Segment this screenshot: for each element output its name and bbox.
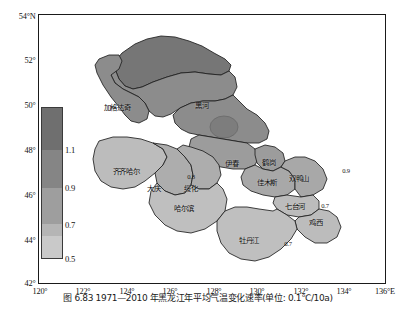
colorbar-segment-3 bbox=[42, 224, 62, 236]
y-tick-54: 54°N bbox=[19, 12, 39, 21]
city-label-jiamusi: 佳木斯 bbox=[257, 176, 277, 187]
y-tick-48: 48° bbox=[25, 146, 39, 155]
contour-label-0: 0.9 bbox=[342, 167, 350, 174]
colorbar-segment-1 bbox=[42, 150, 62, 188]
colorbar-tick-0-9: 0.9 bbox=[65, 183, 75, 193]
figure-container: 加格达奇 黑河 齐齐哈尔 大庆 伊春 绥化 哈尔滨 鹤岗 佳木斯 双鸭山 七台河… bbox=[0, 0, 396, 311]
city-label-yichun: 伊春 bbox=[225, 157, 238, 168]
colorbar bbox=[41, 107, 63, 259]
colorbar-segment-4 bbox=[42, 236, 62, 259]
contour-label-1: 0.7 bbox=[321, 202, 329, 209]
city-label-harbin: 哈尔滨 bbox=[174, 202, 194, 213]
colorbar-tick-1-1: 1.1 bbox=[65, 145, 75, 155]
city-label-hegang: 鹤岗 bbox=[262, 156, 275, 167]
map-plot-area: 加格达奇 黑河 齐齐哈尔 大庆 伊春 绥化 哈尔滨 鹤岗 佳木斯 双鸭山 七台河… bbox=[38, 14, 386, 284]
y-tick-44: 44° bbox=[25, 236, 39, 245]
y-tick-52: 52° bbox=[25, 56, 39, 65]
contour-label-2: 0.7 bbox=[284, 240, 292, 247]
colorbar-segment-0 bbox=[42, 108, 62, 150]
city-label-mudanjiang: 牡丹江 bbox=[239, 234, 259, 245]
city-label-jiagedaqi: 加格达奇 bbox=[104, 101, 130, 112]
colorbar-tick-0-5: 0.5 bbox=[65, 254, 75, 264]
city-label-jixi: 鸡西 bbox=[309, 216, 322, 227]
contour-label-3: 0.8 bbox=[187, 173, 195, 180]
city-label-suihua: 绥化 bbox=[184, 182, 197, 193]
colorbar-segment-2 bbox=[42, 188, 62, 224]
figure-caption: 图 6.83 1971—2010 年黑龙江年平均气温变化速率(单位: 0.1℃/… bbox=[0, 291, 396, 304]
y-tick-46: 46° bbox=[25, 191, 39, 200]
heilongjiang-map bbox=[39, 15, 387, 285]
y-tick-50: 50° bbox=[25, 101, 39, 110]
city-label-heihe: 黑河 bbox=[195, 99, 208, 110]
colorbar-tick-0-7: 0.7 bbox=[65, 220, 75, 230]
city-label-qitaihe: 七台河 bbox=[285, 200, 305, 211]
region-heihe-core bbox=[210, 116, 238, 138]
city-label-qiqihar: 齐齐哈尔 bbox=[113, 165, 139, 176]
city-label-shuangyashan: 双鸭山 bbox=[289, 172, 309, 183]
city-label-daqing: 大庆 bbox=[147, 182, 160, 193]
